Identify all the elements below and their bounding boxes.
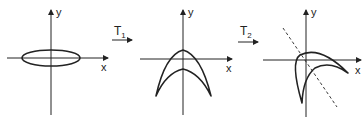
dashed-symmetry-line: [283, 28, 337, 107]
x-axis-label: x: [101, 61, 107, 73]
y-axis-label: y: [188, 6, 194, 18]
x-axis-label: x: [226, 62, 232, 74]
y-axis-label: y: [56, 6, 62, 18]
transform-t2: T2: [238, 24, 258, 42]
transform-label: T2: [240, 24, 252, 40]
panel-original: y x: [7, 6, 108, 115]
panel-after-t2: y x: [263, 6, 361, 117]
x-axis-label: x: [355, 64, 361, 76]
transform-label: T1: [114, 24, 126, 40]
transform-t1: T1: [112, 24, 132, 40]
transformation-diagram: y x T1 y x T2 y x: [0, 0, 363, 125]
y-axis-label: y: [311, 6, 317, 18]
panel-after-t1: y x: [140, 6, 232, 115]
